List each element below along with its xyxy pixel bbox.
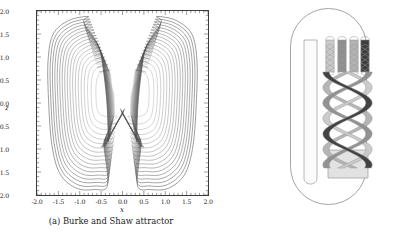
y-tick-label: 1.5 xyxy=(0,31,9,38)
plot-area xyxy=(37,11,208,195)
axis-ticks xyxy=(37,11,208,195)
panel-b-template-diagram: (b) Four branches template xyxy=(222,0,394,239)
two-panel-figure: z x -2.0-1.5-1.0-0.50.00.51.01.52.0 -2.0… xyxy=(0,0,394,239)
y-tick-label: -2.0 xyxy=(0,192,9,199)
y-tick-label: 2.0 xyxy=(0,8,9,15)
x-axis-label: x xyxy=(120,205,124,214)
caption-panel-a: (a) Burke and Shaw attractor xyxy=(0,216,222,226)
y-tick-label: 1.0 xyxy=(0,54,9,61)
y-tick-label: -1.5 xyxy=(0,169,9,176)
x-tick-label: 2.0 xyxy=(193,198,223,205)
plot-frame xyxy=(36,10,209,196)
y-tick-label: 0.0 xyxy=(0,100,9,107)
y-tick-label: -1.0 xyxy=(0,146,9,153)
four-branches-template-graphic xyxy=(222,0,394,212)
panel-a-attractor-plot: z x -2.0-1.5-1.0-0.50.00.51.01.52.0 -2.0… xyxy=(0,0,222,239)
y-tick-label: -0.5 xyxy=(0,123,9,130)
y-tick-label: 0.5 xyxy=(0,77,9,84)
